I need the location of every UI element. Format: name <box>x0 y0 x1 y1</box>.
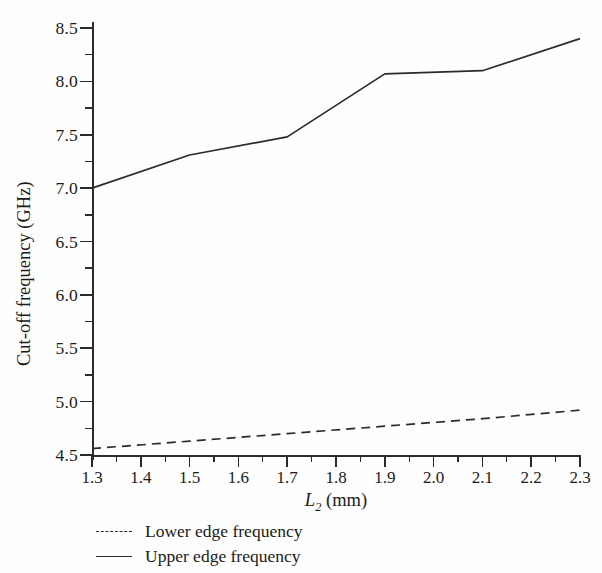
x-axis-title-unit: (mm) <box>326 490 367 510</box>
plot-curves <box>0 0 602 573</box>
legend-label-upper: Upper edge frequency <box>145 546 300 567</box>
legend-item-lower: Lower edge frequency <box>96 519 426 544</box>
legend-label-lower: Lower edge frequency <box>145 521 302 542</box>
y-axis-title-text: Cut-off frequency (GHz) <box>14 181 35 366</box>
chart-figure: 4.55.05.56.06.57.07.58.08.5 1.31.41.51.6… <box>0 0 602 573</box>
chart-legend: Lower edge frequency Upper edge frequenc… <box>96 519 426 569</box>
dashed-line-icon <box>96 526 132 538</box>
y-axis-title: Cut-off frequency (GHz) <box>14 366 199 387</box>
x-axis-title: L2 (mm) <box>305 490 367 515</box>
legend-item-upper: Upper edge frequency <box>96 544 426 569</box>
x-axis-title-symbol: L <box>305 490 315 510</box>
solid-line-icon <box>96 551 132 563</box>
series-line-lower <box>92 410 580 448</box>
series-line-upper <box>92 39 580 188</box>
x-axis-title-subscript: 2 <box>315 500 321 514</box>
